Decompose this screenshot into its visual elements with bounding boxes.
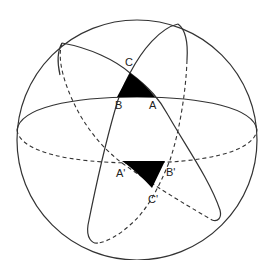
triangle-A-prime-B-prime-C-prime <box>122 161 165 188</box>
sphere-outline <box>17 20 257 260</box>
label-B-prime: B' <box>166 166 175 178</box>
equator-back-arc <box>17 130 257 163</box>
great-circle-1-back <box>60 43 212 220</box>
great-circle-2-right-solid <box>178 24 187 60</box>
label-A-prime: A' <box>116 167 125 179</box>
great-circle-1-front <box>62 43 221 221</box>
diagram-canvas: C B A A' B' C' <box>0 0 267 260</box>
sphere-diagram: C B A A' B' C' <box>0 0 267 260</box>
label-C-prime: C' <box>148 193 158 205</box>
label-C: C <box>125 56 133 68</box>
label-B: B <box>115 99 122 111</box>
equator-front-arc <box>17 97 257 130</box>
triangle-ABC <box>117 73 155 97</box>
label-A: A <box>149 99 157 111</box>
